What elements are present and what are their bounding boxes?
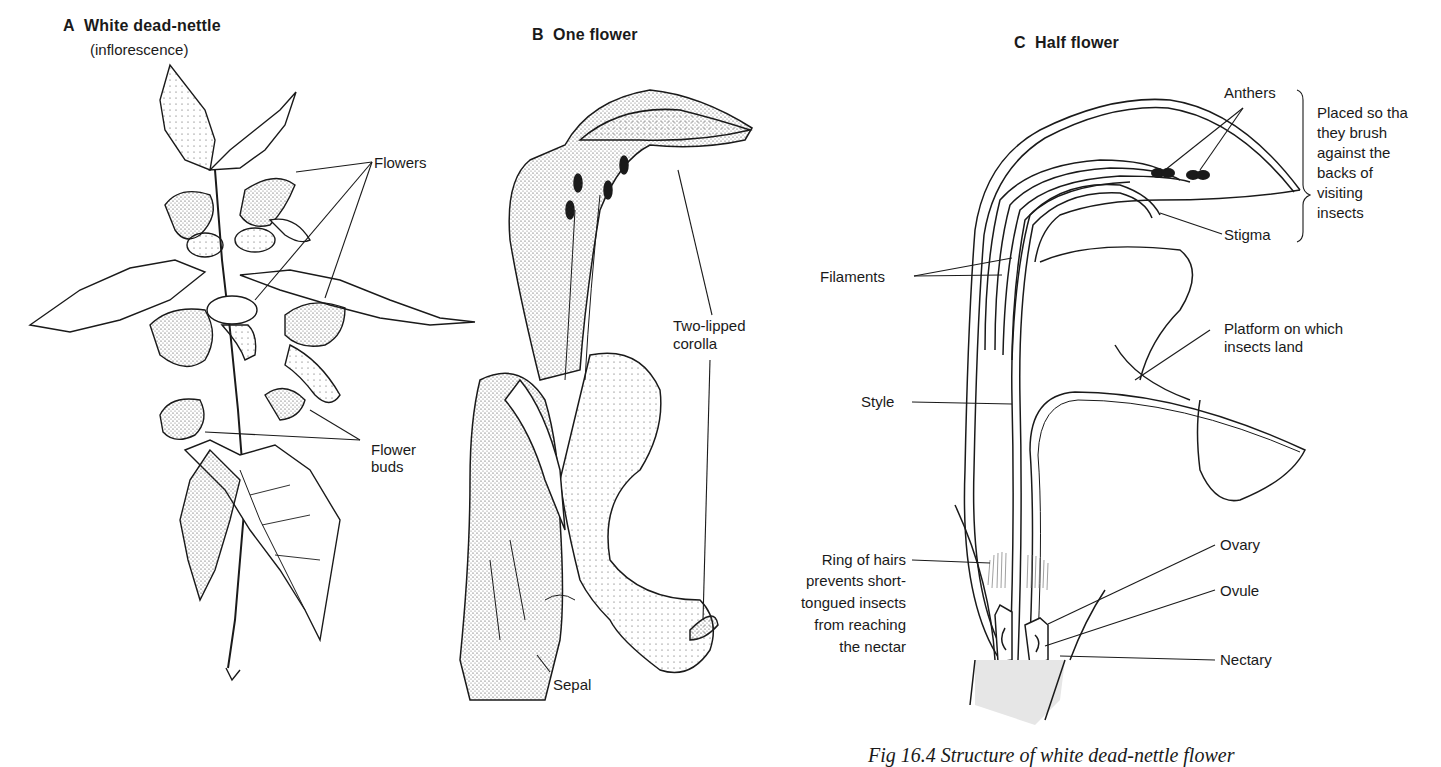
panel-c-title-text: Half flower bbox=[1035, 34, 1119, 51]
panel-a-title-text: White dead-nettle bbox=[84, 17, 221, 34]
label-two-lipped-line2: corolla bbox=[673, 335, 717, 352]
panel-c-leader-lines bbox=[912, 90, 1310, 660]
half-flower-drawing bbox=[955, 99, 1305, 725]
label-filaments: Filaments bbox=[820, 268, 885, 285]
label-ring-of-hairs-4: from reaching bbox=[760, 616, 906, 633]
panel-a-subtitle: (inflorescence) bbox=[90, 41, 188, 58]
label-stigma: Stigma bbox=[1224, 226, 1271, 243]
label-flower-buds-line2: buds bbox=[371, 458, 404, 475]
label-platform-line2: insects land bbox=[1224, 338, 1303, 355]
label-brace-note-4: backs of bbox=[1317, 164, 1373, 181]
label-sepal: Sepal bbox=[553, 676, 591, 693]
label-nectary: Nectary bbox=[1220, 651, 1272, 668]
label-flower-buds-line1: Flower bbox=[371, 441, 416, 458]
label-ring-of-hairs-3: tongued insects bbox=[760, 594, 906, 611]
panel-c-letter: C bbox=[1014, 34, 1026, 51]
label-ovary: Ovary bbox=[1220, 536, 1260, 553]
panel-a-letter: A bbox=[63, 17, 75, 34]
label-platform-line1: Platform on which bbox=[1224, 320, 1343, 337]
panel-c-title: C Half flower bbox=[1014, 34, 1119, 52]
label-ring-of-hairs-1: Ring of hairs bbox=[760, 551, 906, 568]
label-two-lipped-line1: Two-lipped bbox=[673, 317, 746, 334]
label-brace-note-3: against the bbox=[1317, 144, 1390, 161]
flower-side-view-drawing bbox=[460, 90, 752, 700]
figure-caption: Fig 16.4 Structure of white dead-nettle … bbox=[868, 744, 1234, 767]
label-ring-of-hairs-2: prevents short- bbox=[760, 572, 906, 589]
label-ring-of-hairs-5: the nectar bbox=[760, 638, 906, 655]
label-flowers: Flowers bbox=[374, 154, 427, 171]
label-ovule: Ovule bbox=[1220, 582, 1259, 599]
label-brace-note-5: visiting bbox=[1317, 184, 1363, 201]
label-brace-note-6: insects bbox=[1317, 204, 1364, 221]
label-brace-note-1: Placed so tha bbox=[1317, 104, 1408, 121]
label-style: Style bbox=[861, 393, 894, 410]
panel-a-title: A White dead-nettle bbox=[63, 17, 221, 35]
label-anthers: Anthers bbox=[1224, 84, 1276, 101]
label-brace-note-2: they brush bbox=[1317, 124, 1387, 141]
panel-b-title-text: One flower bbox=[553, 26, 638, 43]
panel-b-letter: B bbox=[532, 26, 544, 43]
panel-b-title: B One flower bbox=[532, 26, 638, 44]
